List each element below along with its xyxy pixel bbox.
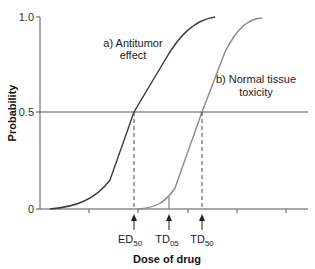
y-tick-label-0: 0 <box>28 203 34 215</box>
y-tick-label-0.5: 0.5 <box>19 106 34 118</box>
curve-a-annotation-line2: effect <box>120 49 147 61</box>
td50-label: TD50 <box>190 233 214 248</box>
x-axis-ticks <box>89 209 286 213</box>
ed50-label: ED50 <box>118 233 143 248</box>
x-axis-title: Dose of drug <box>133 253 201 265</box>
td05-label: TD05 <box>155 233 179 248</box>
curve-a-annotation-line1: a) Antitumor <box>103 37 163 49</box>
curve-b-annotation-line1: b) Normal tissue <box>216 73 296 85</box>
y-axis-title: Probability <box>6 84 18 142</box>
y-tick-label-1.0: 1.0 <box>19 11 34 23</box>
ed50-arrow-icon <box>131 214 137 230</box>
td50-arrow-icon <box>199 214 205 230</box>
td05-arrow-icon <box>166 214 172 230</box>
curve-b-annotation-line2: toxicity <box>239 86 273 98</box>
dose-response-chart: 1.0 0.5 0 Probability ED50 TD05 TD50 Dos… <box>0 0 315 269</box>
